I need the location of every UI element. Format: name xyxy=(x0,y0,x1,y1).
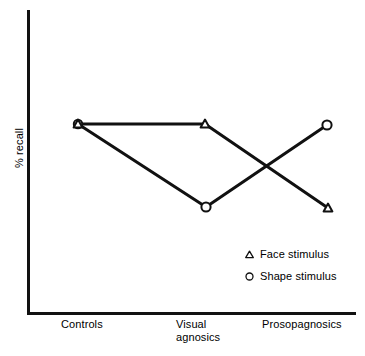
data-point-face-visual-agnosics xyxy=(201,120,210,128)
legend-label-face-stimulus: Face stimulus xyxy=(260,248,329,260)
x-axis-category-label-visual-agnosics: Visual agnosics xyxy=(176,318,220,343)
data-point-shape-visual-agnosics xyxy=(201,202,210,211)
data-point-shape-prosopagnosics xyxy=(322,120,331,129)
circle-icon xyxy=(243,270,256,283)
legend-label-shape-stimulus: Shape stimulus xyxy=(260,270,337,282)
legend-item-face-stimulus: Face stimulus xyxy=(243,243,363,265)
legend: Face stimulus Shape stimulus xyxy=(243,243,363,287)
x-axis-category-label-controls: Controls xyxy=(61,318,103,331)
series-line-shape-stimulus xyxy=(78,124,327,207)
series-line-face-stimulus xyxy=(78,124,328,208)
plot-area xyxy=(0,0,365,356)
x-axis-category-label-prosopagnosics: Prosopagnosics xyxy=(262,318,342,331)
legend-item-shape-stimulus: Shape stimulus xyxy=(243,265,363,287)
triangle-icon xyxy=(243,248,256,261)
figure: % recall Controls Visual agnosics Prosop… xyxy=(0,0,365,356)
